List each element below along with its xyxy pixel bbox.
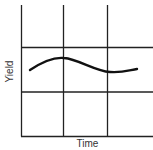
x-axis-label: Time [0,138,153,149]
y-axis-label: Yield [4,55,15,89]
yield-time-diagram [0,0,153,150]
yield-curve [30,58,137,72]
